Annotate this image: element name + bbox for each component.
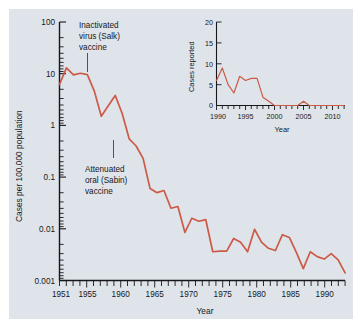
inset-y-ticks: [217, 22, 222, 106]
annotation-salk: Inactivated virus (Salk) vaccine: [79, 21, 120, 72]
inset-y-tick-label: 0: [209, 101, 213, 110]
x-tick-label: 1990: [316, 290, 335, 299]
x-tick-label: 1965: [146, 290, 165, 299]
main-y-axis-title: Cases per 100,000 population: [14, 110, 24, 222]
inset-y-axis-title: Cases reported: [187, 41, 196, 92]
inset-x-tick-labels: 1990 1995 2000 2005 2010: [210, 112, 341, 121]
inset-y-tick-label: 15: [205, 39, 213, 48]
annotation-sabin-line2: oral (Sabin): [85, 176, 128, 185]
inset-y-tick-labels: 20 15 10 5 0: [205, 18, 213, 111]
inset-y-tick-label: 10: [205, 60, 213, 69]
y-tick-label: 10: [46, 70, 56, 79]
main-x-axis-title: Year: [197, 306, 214, 316]
inset-x-axis-title: Year: [275, 125, 290, 134]
inset-x-tick-label: 2000: [267, 112, 283, 121]
x-tick-label: 1951: [52, 290, 71, 299]
inset-x-tick-label: 2005: [296, 112, 312, 121]
x-tick-label: 1955: [78, 290, 97, 299]
annotation-salk-line1: Inactivated: [79, 21, 119, 30]
main-x-year-ticks: [60, 281, 346, 288]
inset-x-tick-label: 1990: [210, 112, 226, 121]
annotation-salk-line3: vaccine: [79, 43, 107, 52]
main-y-major-ticks: [60, 22, 67, 281]
x-tick-label: 1975: [214, 290, 233, 299]
inset-x-tick-label: 1995: [238, 112, 254, 121]
annotation-sabin-line1: Attenuated: [85, 165, 125, 174]
y-tick-label: 0.01: [39, 225, 55, 234]
y-tick-label: 100: [41, 18, 55, 27]
annotation-salk-line2: virus (Salk): [79, 32, 120, 41]
inset-chart: 20 15 10 5 0 Cases reported: [187, 18, 345, 134]
polio-incidence-figure: 100 10 1 0.1 0.01 0.001 Cases per 100,00…: [0, 0, 361, 336]
annotation-sabin: Attenuated oral (Sabin) vaccine: [85, 140, 128, 196]
main-x-tick-labels: 1951 1955 1960 1965 1970 1975 1980 1985 …: [52, 290, 334, 299]
x-tick-label: 1980: [248, 290, 267, 299]
y-tick-label: 0.1: [44, 173, 56, 182]
x-tick-label: 1960: [112, 290, 131, 299]
inset-x-ticks: [217, 106, 345, 111]
inset-x-tick-label: 2010: [325, 112, 341, 121]
x-tick-label: 1985: [282, 290, 301, 299]
inset-data-line: [217, 68, 345, 106]
y-tick-label: 0.001: [35, 277, 56, 286]
annotation-sabin-line3: vaccine: [85, 187, 113, 196]
chart-canvas: 100 10 1 0.1 0.01 0.001 Cases per 100,00…: [0, 0, 361, 336]
y-tick-label: 1: [50, 121, 55, 130]
inset-y-tick-label: 20: [205, 18, 213, 27]
main-axis-lines: [60, 22, 346, 281]
x-tick-label: 1970: [180, 290, 199, 299]
main-y-tick-labels: 100 10 1 0.1 0.01 0.001: [35, 18, 56, 286]
inset-y-tick-label: 5: [209, 81, 213, 90]
